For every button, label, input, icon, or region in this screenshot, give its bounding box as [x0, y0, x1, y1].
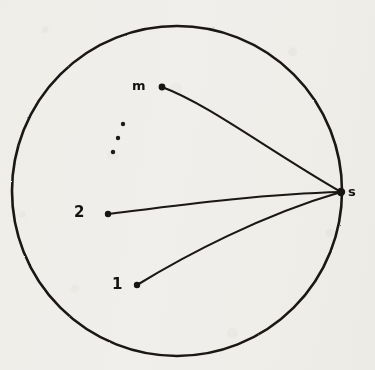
node-dot-s: [337, 188, 345, 196]
diagram-canvas: [0, 0, 375, 370]
node-label-2: 2: [74, 205, 84, 220]
ellipsis-dot: [116, 136, 120, 140]
edge-m-to-s: [162, 87, 341, 192]
ellipsis-dot: [121, 122, 125, 126]
vertical-ellipsis-icon: [111, 122, 125, 154]
figure-root: m 2 1 s: [0, 0, 375, 370]
node-dot-1: [134, 282, 140, 288]
node-label-s: s: [348, 185, 356, 198]
ellipsis-dot: [111, 150, 115, 154]
node-dot-2: [105, 211, 111, 217]
node-dot-m: [159, 84, 166, 91]
node-label-1: 1: [112, 277, 122, 292]
node-label-m: m: [132, 79, 145, 92]
boundary-circle: [12, 26, 342, 356]
